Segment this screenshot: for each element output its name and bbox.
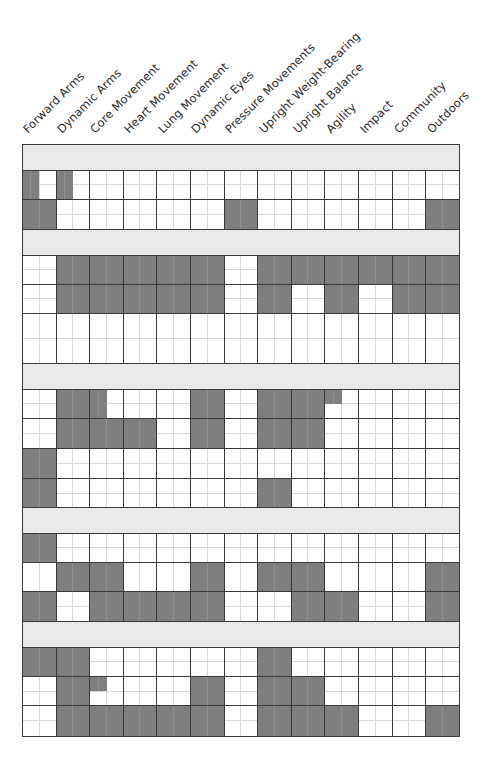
grid-cell[interactable] [325,419,359,448]
grid-cell[interactable] [191,706,225,736]
grid-cell[interactable] [191,648,225,676]
grid-cell[interactable] [325,706,359,736]
grid-cell[interactable] [426,563,459,591]
grid-cell[interactable] [225,449,259,478]
grid-cell[interactable] [191,200,225,229]
grid-cell[interactable] [90,534,124,562]
grid-cell[interactable] [393,256,427,284]
grid-cell[interactable] [23,677,57,705]
grid-cell[interactable] [191,419,225,448]
grid-cell[interactable] [359,592,393,621]
grid-cell[interactable] [225,256,259,284]
grid-cell[interactable] [325,314,359,363]
grid-cell[interactable] [90,706,124,736]
grid-cell[interactable] [258,285,292,313]
grid-cell[interactable] [191,449,225,478]
grid-cell[interactable] [124,706,158,736]
grid-cell[interactable] [258,256,292,284]
grid-cell[interactable] [325,171,359,199]
grid-cell[interactable] [90,677,124,705]
grid-cell[interactable] [359,563,393,591]
grid-cell[interactable] [124,390,158,418]
grid-cell[interactable] [325,479,359,507]
grid-cell[interactable] [157,479,191,507]
grid-cell[interactable] [23,314,57,363]
grid-cell[interactable] [359,648,393,676]
grid-cell[interactable] [426,706,459,736]
grid-cell[interactable] [225,390,259,418]
grid-cell[interactable] [157,648,191,676]
grid-cell[interactable] [225,706,259,736]
grid-cell[interactable] [325,200,359,229]
grid-cell[interactable] [124,285,158,313]
grid-cell[interactable] [157,706,191,736]
grid-cell[interactable] [258,592,292,621]
grid-cell[interactable] [90,479,124,507]
grid-cell[interactable] [393,534,427,562]
grid-cell[interactable] [292,648,326,676]
grid-cell[interactable] [292,419,326,448]
grid-cell[interactable] [23,200,57,229]
grid-cell[interactable] [426,449,459,478]
grid-cell[interactable] [426,479,459,507]
grid-cell[interactable] [191,285,225,313]
grid-cell[interactable] [225,592,259,621]
grid-cell[interactable] [359,171,393,199]
grid-cell[interactable] [57,534,91,562]
grid-cell[interactable] [57,419,91,448]
grid-cell[interactable] [225,200,259,229]
grid-cell[interactable] [393,200,427,229]
grid-cell[interactable] [258,449,292,478]
grid-cell[interactable] [23,390,57,418]
grid-cell[interactable] [426,419,459,448]
grid-cell[interactable] [225,563,259,591]
grid-cell[interactable] [325,534,359,562]
grid-cell[interactable] [258,706,292,736]
grid-cell[interactable] [124,534,158,562]
grid-cell[interactable] [258,419,292,448]
grid-cell[interactable] [393,479,427,507]
grid-cell[interactable] [191,390,225,418]
grid-cell[interactable] [57,449,91,478]
grid-cell[interactable] [359,390,393,418]
grid-cell[interactable] [124,479,158,507]
grid-cell[interactable] [225,534,259,562]
grid-cell[interactable] [57,314,91,363]
grid-cell[interactable] [157,449,191,478]
grid-cell[interactable] [292,677,326,705]
grid-cell[interactable] [426,534,459,562]
grid-cell[interactable] [90,648,124,676]
grid-cell[interactable] [57,171,91,199]
grid-cell[interactable] [23,171,57,199]
grid-cell[interactable] [157,200,191,229]
grid-cell[interactable] [426,592,459,621]
grid-cell[interactable] [325,648,359,676]
grid-cell[interactable] [57,285,91,313]
grid-cell[interactable] [393,390,427,418]
grid-cell[interactable] [124,419,158,448]
grid-cell[interactable] [393,285,427,313]
grid-cell[interactable] [90,171,124,199]
grid-cell[interactable] [393,314,427,363]
grid-cell[interactable] [325,677,359,705]
grid-cell[interactable] [124,677,158,705]
grid-cell[interactable] [23,419,57,448]
grid-cell[interactable] [258,677,292,705]
grid-cell[interactable] [393,563,427,591]
grid-cell[interactable] [191,677,225,705]
grid-cell[interactable] [23,563,57,591]
grid-cell[interactable] [359,534,393,562]
grid-cell[interactable] [258,390,292,418]
grid-cell[interactable] [191,534,225,562]
grid-cell[interactable] [124,449,158,478]
grid-cell[interactable] [292,171,326,199]
grid-cell[interactable] [225,419,259,448]
grid-cell[interactable] [325,256,359,284]
grid-cell[interactable] [23,706,57,736]
grid-cell[interactable] [90,449,124,478]
grid-cell[interactable] [359,677,393,705]
grid-cell[interactable] [57,200,91,229]
grid-cell[interactable] [258,648,292,676]
grid-cell[interactable] [359,479,393,507]
grid-cell[interactable] [90,563,124,591]
